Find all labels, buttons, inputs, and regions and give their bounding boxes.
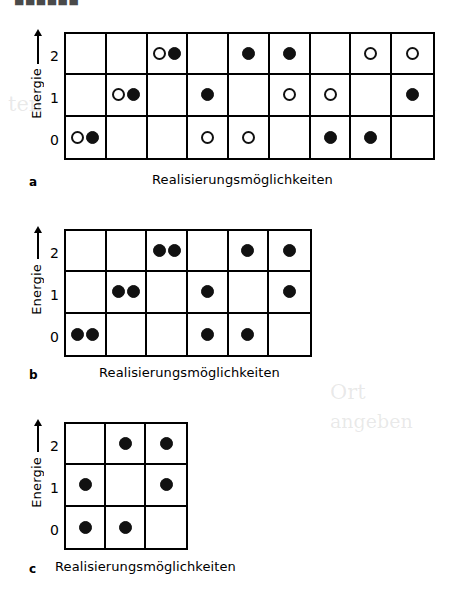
- energy-axis-arrow: [37, 231, 39, 259]
- open-dot: [283, 88, 296, 101]
- filled-dot: [86, 328, 99, 341]
- grid-cell: [229, 34, 270, 75]
- tick-label-1: 1: [45, 288, 59, 302]
- grid-cell: [148, 75, 189, 116]
- grid-cell: [148, 117, 189, 158]
- filled-dot: [283, 47, 296, 60]
- grid-cell: [66, 314, 107, 355]
- tick-label-2: 2: [45, 49, 59, 63]
- filled-dot: [127, 88, 140, 101]
- filled-dot: [201, 328, 214, 341]
- energy-axis-label: Energie: [30, 457, 43, 508]
- grid-cell: [146, 424, 186, 465]
- open-dot: [242, 131, 255, 144]
- tick-label-2: 2: [45, 246, 59, 260]
- grid-cell: [147, 272, 188, 313]
- grid-cell: [229, 117, 270, 158]
- grid-cell: [66, 465, 106, 506]
- grid-cell: [66, 75, 107, 116]
- grid-cell: [392, 75, 433, 116]
- grid-cell: [66, 507, 106, 548]
- tick-label-1: 1: [45, 481, 59, 495]
- panel-letter-b: b: [29, 368, 38, 382]
- filled-dot: [242, 47, 255, 60]
- grid-panel-c: [64, 422, 188, 550]
- panel-caption-b: Realisierungsmöglichkeiten: [99, 365, 280, 380]
- grid-cell: [66, 34, 107, 75]
- grid-cell: [311, 34, 352, 75]
- energy-axis-arrow: [37, 34, 39, 64]
- grid-cell: [311, 117, 352, 158]
- filled-dot: [201, 285, 214, 298]
- grid-cell: [188, 272, 229, 313]
- grid-cell: [66, 272, 107, 313]
- filled-dot: [160, 437, 173, 450]
- filled-dot: [112, 285, 125, 298]
- grid-cell: [188, 314, 229, 355]
- open-dot: [201, 131, 214, 144]
- open-dot: [364, 47, 377, 60]
- grid-cell: [147, 231, 188, 272]
- ghost-text: angeben: [330, 410, 413, 432]
- grid-cell: [229, 75, 270, 116]
- grid-panel-a: [64, 32, 435, 160]
- grid-cell: [229, 272, 270, 313]
- grid-cell: [107, 272, 148, 313]
- energy-axis-label: Energie: [30, 264, 43, 315]
- energy-axis-arrow: [37, 424, 39, 452]
- filled-dot: [86, 131, 99, 144]
- grid-panel-b: [64, 229, 312, 357]
- open-dot: [406, 47, 419, 60]
- panel-caption-c: Realisierungsmöglichkeiten: [55, 559, 236, 574]
- grid-cell: [106, 465, 146, 506]
- filled-dot: [364, 131, 377, 144]
- filled-dot: [71, 328, 84, 341]
- grid-cell: [270, 117, 311, 158]
- grid-cell: [106, 424, 146, 465]
- panel-letter-c: c: [29, 562, 36, 576]
- grid-cell: [392, 117, 433, 158]
- filled-dot: [168, 244, 181, 257]
- open-dot: [153, 47, 166, 60]
- grid-cell: [269, 272, 310, 313]
- grid-cell: [269, 231, 310, 272]
- grid-cell: [188, 75, 229, 116]
- filled-dot: [119, 437, 132, 450]
- grid-cell: [188, 34, 229, 75]
- grid-cell: [188, 231, 229, 272]
- grid-cell: [270, 34, 311, 75]
- grid-cell: [66, 424, 106, 465]
- panel-caption-a: Realisierungsmöglichkeiten: [152, 172, 333, 187]
- grid-cell: [146, 507, 186, 548]
- grid-cell: [106, 507, 146, 548]
- tick-label-0: 0: [45, 133, 59, 147]
- open-dot: [112, 88, 125, 101]
- filled-dot: [283, 285, 296, 298]
- grid-cell: [351, 34, 392, 75]
- filled-dot: [241, 328, 254, 341]
- grid-cell: [107, 75, 148, 116]
- tick-label-2: 2: [45, 439, 59, 453]
- tick-label-0: 0: [45, 523, 59, 537]
- grid-cell: [66, 231, 107, 272]
- open-dot: [324, 88, 337, 101]
- filled-dot: [283, 244, 296, 257]
- energy-axis-label: Energie: [30, 68, 43, 119]
- grid-cell: [107, 314, 148, 355]
- grid-cell: [229, 314, 270, 355]
- clipped-header-fragment: ■■■■■■: [14, 0, 79, 7]
- grid-cell: [66, 117, 107, 158]
- grid-cell: [107, 34, 148, 75]
- filled-dot: [324, 131, 337, 144]
- grid-cell: [148, 34, 189, 75]
- filled-dot: [153, 244, 166, 257]
- tick-label-0: 0: [45, 330, 59, 344]
- filled-dot: [168, 47, 181, 60]
- filled-dot: [241, 244, 254, 257]
- grid-cell: [146, 465, 186, 506]
- grid-cell: [188, 117, 229, 158]
- panel-letter-a: a: [29, 175, 37, 189]
- grid-cell: [107, 117, 148, 158]
- grid-cell: [229, 231, 270, 272]
- grid-cell: [107, 231, 148, 272]
